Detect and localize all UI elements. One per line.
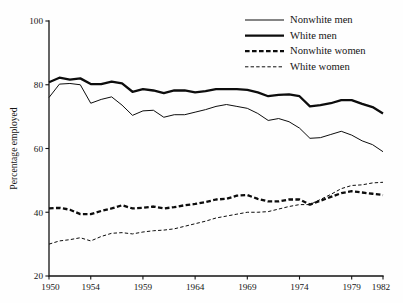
- x-tick-label: 1974: [290, 282, 309, 292]
- y-tick-label: 60: [34, 144, 44, 154]
- chart-legend: Nonwhite menWhite menNonwhite womenWhite…: [245, 14, 366, 72]
- chart-axes: 2040608010019501954195919641969197419791…: [29, 16, 390, 291]
- x-tick-label: 1969: [238, 282, 257, 292]
- y-tick-label: 80: [34, 80, 44, 90]
- series-line-nonwhite-women: [49, 191, 383, 214]
- legend-label-nonwhite-men: Nonwhite men: [290, 14, 353, 25]
- legend-label-nonwhite-women: Nonwhite women: [290, 45, 366, 56]
- legend-label-white-women: White women: [290, 61, 350, 72]
- line-chart: 2040608010019501954195919641969197419791…: [0, 0, 403, 303]
- y-tick-label: 20: [34, 271, 44, 281]
- x-tick-label: 1979: [343, 282, 362, 292]
- x-tick-label: 1954: [82, 282, 101, 292]
- legend-label-white-men: White men: [290, 30, 337, 41]
- y-axis-title: Percentage employed: [8, 107, 19, 190]
- chart-series: [49, 78, 383, 244]
- series-line-white-men: [49, 78, 383, 114]
- y-tick-label: 40: [34, 208, 44, 218]
- x-tick-label: 1959: [134, 282, 153, 292]
- series-line-white-women: [49, 182, 383, 244]
- x-tick-label: 1982: [372, 282, 391, 292]
- chart-figure: 2040608010019501954195919641969197419791…: [0, 0, 403, 303]
- y-tick-label: 100: [29, 16, 43, 26]
- series-line-nonwhite-men: [49, 83, 383, 151]
- x-tick-label: 1950: [41, 282, 60, 292]
- chart-axis-labels: Percentage employed: [8, 107, 19, 190]
- x-tick-label: 1964: [186, 282, 205, 292]
